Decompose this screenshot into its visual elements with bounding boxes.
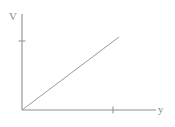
data-line-series-1	[22, 37, 119, 110]
x-axis-label: y	[158, 104, 164, 115]
plot-canvas	[0, 0, 175, 127]
figure-container: V y	[0, 0, 175, 127]
y-axis-label: V	[9, 11, 17, 22]
